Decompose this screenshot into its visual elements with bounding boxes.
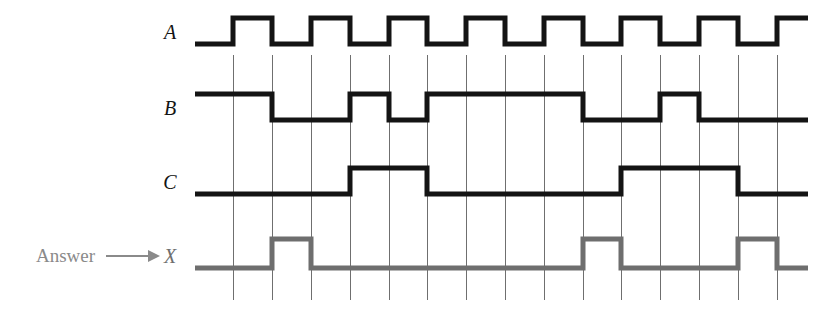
arrow-right-icon (106, 250, 160, 262)
answer-annotation: Answer (36, 245, 160, 266)
signal-label-x: X (163, 245, 177, 267)
signal-label-b: B (164, 97, 176, 119)
waveform-a (195, 18, 808, 44)
signal-labels: ABCX (162, 21, 177, 267)
timing-diagram: ABCX Answer (0, 0, 836, 317)
waveform-b (195, 94, 808, 120)
waveform-c (195, 168, 808, 194)
signal-label-a: A (162, 21, 177, 43)
signal-label-c: C (163, 171, 177, 193)
answer-label: Answer (36, 245, 96, 266)
waveform-x (195, 239, 808, 268)
timing-diagram-canvas: ABCX Answer (0, 0, 836, 317)
waveforms (195, 18, 808, 268)
